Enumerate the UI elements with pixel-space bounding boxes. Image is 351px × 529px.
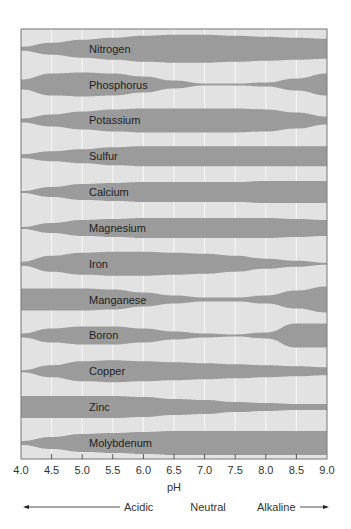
band-label-sulfur: Sulfur: [89, 150, 118, 162]
tick-label: 8.5: [289, 464, 304, 476]
x-axis-label: pH: [167, 481, 181, 493]
tick-label: 6.0: [136, 464, 151, 476]
tick-label: 8.0: [258, 464, 273, 476]
left-arrow-icon: [23, 505, 29, 509]
tick-label: 4.5: [44, 464, 59, 476]
right-arrow-icon: [323, 505, 329, 509]
nutrient-availability-chart: NitrogenPhosphorusPotassiumSulfurCalcium…: [0, 0, 351, 529]
band-label-molybdenum: Molybdenum: [89, 437, 152, 449]
band-label-iron: Iron: [89, 258, 108, 270]
alkaline-label: Alkaline: [257, 501, 296, 513]
band-label-zinc: Zinc: [89, 401, 110, 413]
tick-label: 4.0: [13, 464, 28, 476]
band-label-copper: Copper: [89, 365, 125, 377]
tick-label: 7.0: [197, 464, 212, 476]
acidic-label: Acidic: [124, 501, 154, 513]
tick-label: 5.5: [105, 464, 120, 476]
tick-label: 9.0: [319, 464, 334, 476]
neutral-label: Neutral: [190, 501, 225, 513]
band-label-boron: Boron: [89, 329, 118, 341]
band-label-manganese: Manganese: [89, 294, 147, 306]
band-label-potassium: Potassium: [89, 114, 140, 126]
band-label-calcium: Calcium: [89, 186, 129, 198]
ph-scale-legend: Acidic Neutral Alkaline: [23, 501, 329, 513]
band-label-phosphorus: Phosphorus: [89, 79, 148, 91]
tick-label: 6.5: [166, 464, 181, 476]
tick-label: 5.0: [75, 464, 90, 476]
band-label-nitrogen: Nitrogen: [89, 43, 131, 55]
tick-label: 7.5: [228, 464, 243, 476]
band-label-magnesium: Magnesium: [89, 222, 146, 234]
